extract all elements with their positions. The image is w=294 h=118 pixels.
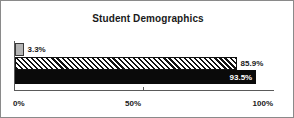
x-axis-line <box>14 90 274 91</box>
data-label-series-2: 85.9% <box>241 59 264 68</box>
chart-title: Student Demographics <box>1 13 294 25</box>
data-label-series-1: 3.3% <box>28 45 46 54</box>
x-axis-label-50: 50% <box>125 99 141 108</box>
bar-series-2[interactable] <box>15 57 237 70</box>
data-label-series-3: 93.5% <box>15 73 252 82</box>
plot-area: 3.3% 85.9% 93.5% <box>15 41 273 91</box>
x-axis-label-100: 100% <box>253 99 273 108</box>
x-axis-label-0: 0% <box>13 99 25 108</box>
x-axis-tick-50 <box>143 87 144 90</box>
bar-series-1[interactable] <box>15 43 24 56</box>
chart-container: Student Demographics 3.3% 85.9% 93.5% 0%… <box>0 0 294 118</box>
